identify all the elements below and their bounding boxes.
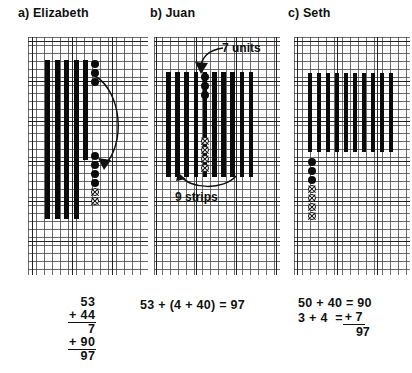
unit-dot-crossed (308, 203, 316, 211)
unit-dot-crossed (201, 146, 209, 154)
strip (194, 72, 199, 177)
strip (55, 60, 60, 160)
equation-b-line-1: 53 + (4 + 40) = 97 (140, 298, 245, 312)
equation-a-line-5: 97 (68, 350, 96, 363)
equation-a-line-4: + 90 (68, 336, 96, 350)
equation-a: 53 + 44 7 + 90 97 (68, 296, 96, 363)
strip (249, 72, 254, 177)
unit-dot-crossed (308, 212, 316, 220)
unit-dot-filled (201, 82, 209, 90)
equation-c-addend: + 7 (343, 310, 365, 325)
strip (64, 60, 69, 160)
figure-root: a) Elizabeth (0, 0, 412, 373)
strip (175, 72, 180, 177)
units-callout-arrow-icon (190, 44, 230, 78)
strip (45, 157, 50, 219)
strip (344, 73, 348, 152)
equation-a-stack: 53 + 44 7 + 90 97 (68, 296, 96, 363)
strip (389, 73, 393, 152)
units-c (308, 158, 316, 221)
strip (221, 72, 226, 177)
unit-dot-crossed (201, 155, 209, 163)
strip (184, 72, 189, 177)
equation-c: 50 + 40 = 90 3 + 4 = + 7 97 (298, 296, 372, 339)
equation-b: 53 + (4 + 40) = 97 (140, 298, 245, 312)
strip (317, 73, 321, 152)
panel-elizabeth: a) Elizabeth (18, 0, 150, 373)
panel-seth: c) Seth (288, 0, 412, 373)
strip (353, 73, 357, 152)
unit-dot-crossed (91, 197, 99, 205)
equation-c-sum: 97 (298, 325, 372, 339)
unit-dot-filled (201, 91, 209, 99)
strips-group-c (308, 73, 393, 152)
strip (55, 157, 60, 219)
regroup-arrow-icon-a (78, 62, 140, 192)
equation-a-line-2: + 44 (68, 309, 96, 323)
panel-b-title: b) Juan (150, 6, 195, 20)
strip (335, 73, 339, 152)
unit-dot-filled (308, 167, 316, 175)
equation-c-line-2: 3 + 4 = (298, 311, 343, 325)
strips-group-a-bottom (45, 157, 79, 219)
equation-c-grid: 50 + 40 = 90 3 + 4 = + 7 97 (298, 296, 372, 339)
panel-c-title: c) Seth (288, 6, 330, 20)
strip (371, 73, 375, 152)
strip (380, 73, 384, 152)
unit-dot-filled (308, 176, 316, 184)
strip (45, 60, 50, 160)
unit-dot-crossed (308, 185, 316, 193)
callout-9-strips: 9 strips (175, 190, 218, 204)
strip (308, 73, 312, 152)
unit-dot-crossed (201, 164, 209, 172)
unit-dot-filled (308, 158, 316, 166)
panel-juan: b) Juan (150, 0, 288, 373)
strip (64, 157, 69, 219)
strip (230, 72, 235, 177)
strips-group-b (166, 72, 253, 177)
equation-c-line-1: 50 + 40 = 90 (298, 296, 372, 310)
strip (362, 73, 366, 152)
strip (240, 72, 245, 177)
units-b-crossed (201, 137, 209, 173)
equation-c-line-2-row: 3 + 4 = + 7 (298, 310, 372, 325)
strip (326, 73, 330, 152)
unit-dot-crossed (201, 137, 209, 145)
panel-a-title: a) Elizabeth (18, 6, 89, 20)
strip (212, 72, 217, 177)
unit-dot-crossed (308, 194, 316, 202)
strip (166, 72, 171, 177)
